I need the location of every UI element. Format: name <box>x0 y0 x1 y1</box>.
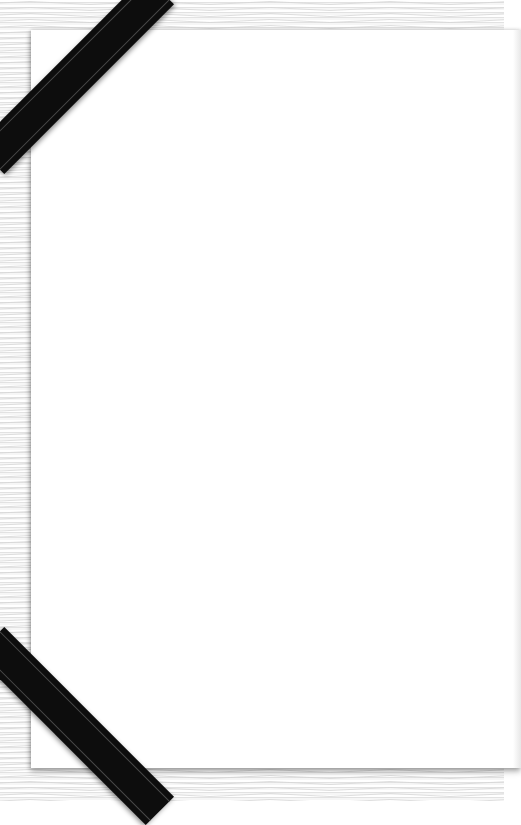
card-edge-shade <box>513 30 521 768</box>
paper-card <box>31 30 521 768</box>
